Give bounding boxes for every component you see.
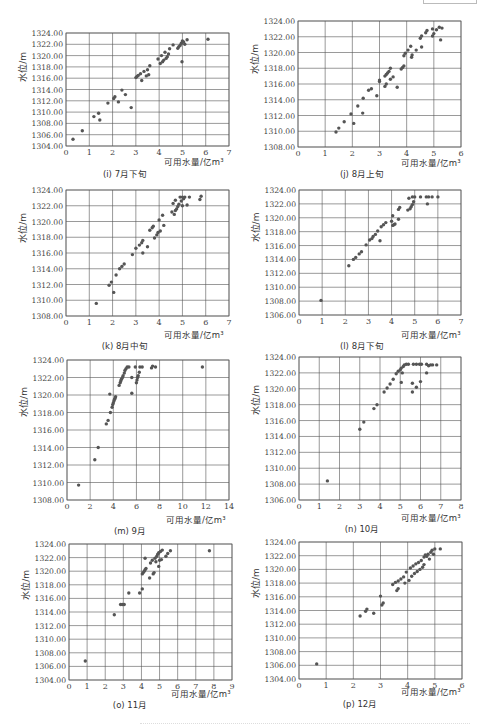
data-point <box>420 559 423 562</box>
x-tick-label: 0 <box>296 681 301 690</box>
data-point <box>407 579 410 582</box>
y-tick-label: 1324.00 <box>265 538 297 547</box>
data-point <box>411 564 414 567</box>
data-point <box>413 572 416 575</box>
data-point <box>382 601 385 604</box>
data-point <box>416 570 419 573</box>
data-point <box>433 547 436 550</box>
data-point <box>399 577 402 580</box>
y-tick-label: 1306.00 <box>265 661 297 670</box>
y-tick-label: 1308.00 <box>265 648 297 657</box>
data-point <box>379 594 382 597</box>
data-point <box>405 570 408 573</box>
y-tick-label: 1304.00 <box>265 675 297 684</box>
data-point <box>365 607 368 610</box>
x-axis-label: 可用水量/亿m³ <box>401 687 461 697</box>
data-point <box>372 612 375 615</box>
x-tick-label: 3 <box>378 681 383 690</box>
y-tick-label: 1312.00 <box>265 620 297 629</box>
x-tick-label: 1 <box>324 681 329 690</box>
x-tick-label: 2 <box>351 681 356 690</box>
data-point <box>432 553 435 556</box>
y-axis-label: 水位/m <box>250 568 261 598</box>
data-point <box>315 662 318 665</box>
data-point <box>426 553 429 556</box>
data-point <box>422 563 425 566</box>
data-point <box>410 575 413 578</box>
chart-title: (p) 12月 <box>343 699 378 709</box>
data-point <box>397 579 400 582</box>
data-point <box>403 581 406 584</box>
y-tick-label: 1310.00 <box>265 634 297 643</box>
y-tick-label: 1318.00 <box>265 579 297 588</box>
y-tick-label: 1322.00 <box>265 552 297 561</box>
data-point <box>428 557 431 560</box>
bottom-caption-line <box>140 723 470 725</box>
data-point <box>391 583 394 586</box>
y-tick-label: 1320.00 <box>265 565 297 574</box>
y-tick-label: 1316.00 <box>265 593 297 602</box>
data-point <box>402 575 405 578</box>
data-point <box>417 561 420 564</box>
data-point <box>397 587 400 590</box>
scatter-chart-p: 01234561304.001306.001308.001310.001312.… <box>0 0 479 727</box>
data-point <box>409 566 412 569</box>
plot-area: 01234561304.001306.001308.001310.001312.… <box>265 538 465 690</box>
data-point <box>358 614 361 617</box>
y-tick-label: 1314.00 <box>265 607 297 616</box>
data-point <box>439 547 442 550</box>
data-point <box>418 568 421 571</box>
